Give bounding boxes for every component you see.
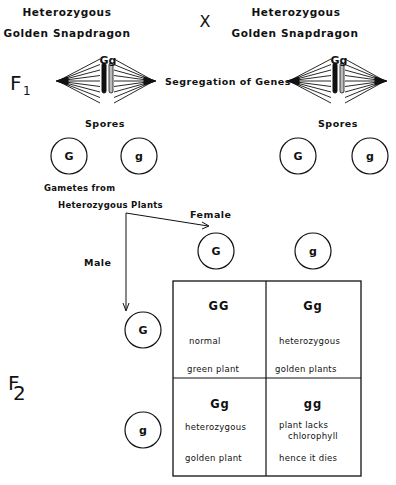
dominant-chromosome (333, 63, 337, 93)
spindle-pole (375, 77, 387, 85)
spore-right-G: G (280, 138, 316, 174)
cell-text: chlorophyll (288, 431, 338, 441)
male-arrow-icon (123, 213, 129, 311)
punnett-square (173, 281, 361, 476)
spindle-fiber (345, 81, 385, 103)
f1-letter: F (10, 71, 22, 95)
cell-text: golden plants (275, 364, 337, 374)
female-gamete-G: G (198, 233, 234, 269)
genetics-diagram: Heterozygous Golden Snapdragon X Heteroz… (0, 0, 396, 485)
spindle-fiber (289, 59, 331, 81)
right-parent-genotype: Gg (331, 54, 348, 67)
male-gamete-g: g (125, 412, 161, 448)
spindle-fiber (114, 81, 154, 103)
spore-allele: G (293, 150, 302, 163)
cell-text: normal (189, 336, 221, 346)
right-parent-line1: Heterozygous (251, 6, 340, 18)
female-gamete-g: g (295, 233, 331, 269)
punnett-cell-Gg-top: Gg heterozygous golden plants (275, 299, 340, 374)
right-spores-label: Spores (318, 118, 358, 129)
spindle-fiber (114, 59, 154, 81)
spindle-fiber (58, 59, 100, 81)
spindle-pole (56, 77, 68, 85)
cell-text: green plant (187, 364, 240, 374)
left-spores-label: Spores (85, 118, 125, 129)
spore-left-G: G (51, 138, 87, 174)
gamete-allele: g (309, 245, 317, 258)
segregation-label: Segregation of Genes (165, 76, 291, 87)
spore-left-g: g (121, 138, 157, 174)
spindle-fiber (58, 81, 100, 103)
cell-text: heterozygous (279, 336, 340, 346)
spindle-fiber (345, 59, 385, 81)
cell-text: hence it dies (279, 453, 338, 463)
spindle-pole (144, 77, 156, 85)
f1-label: F 1 (10, 71, 31, 98)
female-label: Female (190, 209, 232, 220)
punnett-cell-gg: gg plant lacks chlorophyll hence it dies (279, 397, 338, 463)
f2-label: F 2 (8, 371, 26, 405)
f1-subscript: 1 (23, 84, 31, 98)
punnett-cell-GG: GG normal green plant (187, 299, 240, 374)
cell-text: plant lacks (279, 420, 329, 430)
dominant-chromosome (102, 63, 106, 93)
right-parent-line2: Golden Snapdragon (231, 27, 358, 39)
spore-right-g: g (352, 138, 388, 174)
spore-allele: g (135, 150, 143, 163)
gamete-allele: g (139, 424, 147, 437)
male-gamete-G: G (125, 312, 161, 348)
left-parent-genotype: Gg (100, 54, 117, 67)
cross-symbol: X (200, 12, 211, 31)
cell-genotype: Gg (210, 397, 230, 411)
cell-text: heterozygous (185, 422, 246, 432)
spore-allele: g (366, 150, 374, 163)
gametes-label-line1: Gametes from (44, 183, 115, 193)
gametes-label-line2: Heterozygous Plants (58, 200, 163, 210)
gamete-allele: G (211, 245, 220, 258)
recessive-chromosome (340, 63, 344, 93)
cell-genotype: gg (304, 397, 322, 411)
male-label: Male (84, 257, 112, 268)
f2-subscript: 2 (13, 381, 26, 405)
punnett-cell-Gg-bottom: Gg heterozygous golden plant (185, 397, 246, 463)
recessive-chromosome (109, 63, 113, 93)
cell-genotype: GG (209, 299, 230, 313)
spindle-fiber (289, 81, 331, 103)
gamete-allele: G (138, 324, 147, 337)
cell-text: golden plant (185, 453, 242, 463)
left-parent-line1: Heterozygous (22, 6, 111, 18)
spore-allele: G (64, 150, 73, 163)
cell-genotype: Gg (303, 299, 323, 313)
left-parent-line2: Golden Snapdragon (3, 27, 130, 39)
